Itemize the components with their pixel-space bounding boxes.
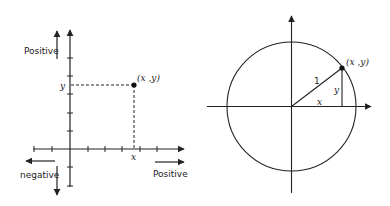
- point-marker: [131, 82, 136, 87]
- circle-point-label: (x ,y): [346, 57, 369, 67]
- cartesian-plane: (x ,y) y x Positive negative Positive: [20, 30, 188, 195]
- circle-x-label: x: [317, 97, 322, 107]
- radius-label: 1: [314, 76, 320, 86]
- x-value-label: x: [131, 152, 136, 162]
- unit-circle-diagram: (x ,y) 1 y x: [207, 16, 371, 193]
- circle-y-label: y: [333, 85, 340, 95]
- circle-point-marker: [339, 65, 344, 70]
- point-label: (x ,y): [137, 73, 160, 83]
- diagram-canvas: (x ,y) y x Positive negative Positive (x…: [0, 0, 390, 206]
- negative-label: negative: [20, 170, 60, 180]
- y-value-label: y: [59, 81, 66, 91]
- positive-y-label: Positive: [24, 46, 59, 56]
- positive-x-label: Positive: [153, 169, 188, 179]
